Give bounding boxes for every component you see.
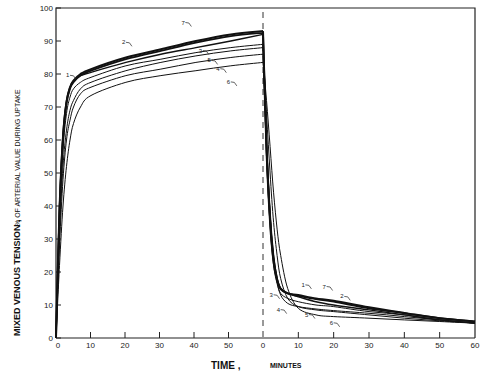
curve-label: 3 (270, 292, 274, 298)
elimination-curve-3 (263, 44, 475, 323)
x-tick-label: 30 (365, 341, 374, 350)
x-tick-label: 10 (294, 341, 303, 350)
curve-label: 1 (66, 72, 70, 78)
curve-label: 1 (301, 282, 305, 288)
y-axis-subtitle: % OF ARTERIAL VALUE DURING UPTAKE (14, 89, 21, 226)
curves (56, 31, 475, 338)
x-tick-label: 30 (155, 341, 164, 350)
x-tick-label: 60 (471, 341, 480, 350)
y-tick-label: 80 (44, 70, 53, 79)
y-tick-label: 40 (44, 202, 53, 211)
uptake-curve-6 (56, 62, 263, 338)
y-tick-label: 60 (44, 136, 53, 145)
curve-label: 7 (181, 20, 185, 26)
x-tick-label: 20 (121, 341, 130, 350)
elimination-curve-6 (263, 62, 475, 323)
elimination-curve-4 (263, 54, 475, 323)
uptake-curve-1 (56, 34, 263, 338)
y-tick-label: 0 (49, 334, 54, 343)
x-tick-label: 40 (190, 341, 199, 350)
curve-label: 2 (122, 39, 126, 45)
x-tick-label: 50 (435, 341, 444, 350)
elimination-curve-1 (263, 34, 475, 323)
y-tick-label: 90 (44, 37, 53, 46)
x-axis-title: TIME , (211, 360, 241, 371)
curve-label: 4 (277, 307, 281, 313)
uptake-curve-4 (56, 54, 263, 338)
elimination-curve-7 (263, 31, 475, 321)
x-tick-label: 0 (261, 341, 266, 350)
uptake-curve-5 (56, 48, 263, 338)
curve-label: 6 (330, 320, 334, 326)
curve-label: 6 (227, 79, 231, 85)
curve-label: 4 (216, 66, 220, 72)
y-tick-label: 100 (40, 4, 54, 13)
x-tick-label: 20 (329, 341, 338, 350)
x-tick-label: 40 (400, 341, 409, 350)
y-tick-label: 20 (44, 268, 53, 277)
curve-label: 5 (305, 312, 309, 318)
y-tick-label: 30 (44, 235, 53, 244)
x-tick-label: 0 (56, 341, 61, 350)
x-axis-subtitle: MINUTES (270, 362, 302, 369)
x-axis: 010203040500102030405060 (56, 332, 480, 350)
plot-frame (56, 8, 475, 338)
elimination-curve-2 (263, 33, 475, 322)
curve-label: 3 (199, 48, 203, 54)
y-tick-label: 70 (44, 103, 53, 112)
curve-label: 2 (340, 293, 344, 299)
y-tick-label: 50 (44, 169, 53, 178)
x-tick-label: 50 (224, 341, 233, 350)
uptake-curve-7 (56, 31, 263, 338)
y-tick-label: 10 (44, 301, 53, 310)
curve-label: 7 (323, 284, 327, 290)
chart: 0102030405060708090100 01020304050010203… (0, 0, 488, 380)
elimination-curve-5 (263, 48, 475, 324)
y-axis-title: MIXED VENOUS TENSION , (12, 219, 22, 336)
curve-labels: 12735463417256 (66, 20, 350, 327)
x-tick-label: 10 (86, 341, 95, 350)
